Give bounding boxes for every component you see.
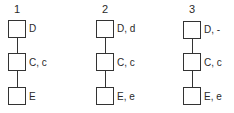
individual-box-bottom [183,87,201,105]
genotype-label-bottom: E [29,91,36,103]
individual-box-middle [8,53,26,71]
individual-box-middle [183,53,201,71]
connector-line [105,71,106,87]
individual-box-bottom [96,87,114,105]
pedigree-3: 3 D, - C, c E, e [183,0,234,113]
individual-box-top [8,20,26,38]
pedigree-number: 2 [96,3,114,15]
connector-line [17,38,18,53]
genotype-label-middle: C, c [117,57,135,69]
genotype-label-top: D, d [117,23,135,35]
genotype-label-top: D, - [204,24,220,36]
connector-line [105,38,106,53]
individual-box-top [183,21,201,39]
connector-line [192,71,193,87]
individual-box-top [96,20,114,38]
genotype-label-bottom: E, e [117,91,135,103]
genotype-label-middle: C, c [204,57,222,69]
connector-line [192,39,193,53]
pedigree-2: 2 D, d C, c E, e [96,0,166,113]
genotype-label-top: D [29,23,36,35]
pedigree-number: 3 [183,3,201,15]
connector-line [17,71,18,87]
pedigree-number: 1 [8,3,26,15]
individual-box-bottom [8,87,26,105]
genotype-label-middle: C, c [29,57,47,69]
individual-box-middle [96,53,114,71]
pedigree-1: 1 D C, c E [8,0,78,113]
genotype-label-bottom: E, e [204,91,222,103]
